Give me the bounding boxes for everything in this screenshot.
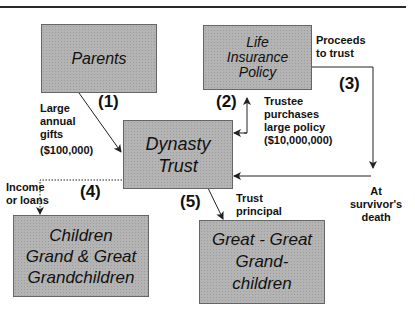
great-great-line-2: Grand- [212,251,312,273]
step-2: (2) [216,92,237,112]
step-5: (5) [180,192,201,212]
children-line-1: Children [26,225,137,246]
dynasty-trust-line-1: Dynasty [145,133,210,155]
principal-label: Trustprincipal [236,192,282,218]
trustee-label: Trusteepurchaseslarge policy($10,000,000… [264,95,333,147]
great-great-line-3: children [212,273,312,295]
proceeds-label: Proceedsto trust [316,34,366,60]
great-great-box: Great - Great Grand- children [199,220,325,304]
life-insurance-line-3: Policy [227,65,288,80]
children-line-3: Grandchildren [26,267,137,288]
gifts-label: Largeannualgifts($100,000) [40,102,93,157]
parents-box: Parents [41,24,157,93]
survivor-label: Atsurvivor'sdeath [350,185,402,224]
life-insurance-box: Life Insurance Policy [203,25,312,90]
children-box: Children Grand & Great Grandchildren [13,215,149,297]
parents-text: Parents [71,50,126,68]
income-label: Incomeor loans [6,181,49,207]
children-line-2: Grand & Great [26,246,137,267]
life-insurance-line-1: Life [227,35,288,50]
life-insurance-line-2: Insurance [227,50,288,65]
dynasty-trust-line-2: Trust [145,155,210,177]
step-1: (1) [98,92,119,112]
step-4: (4) [80,182,101,202]
great-great-line-1: Great - Great [212,229,312,251]
dynasty-trust-box: Dynasty Trust [123,120,233,189]
step-3: (3) [339,74,360,94]
